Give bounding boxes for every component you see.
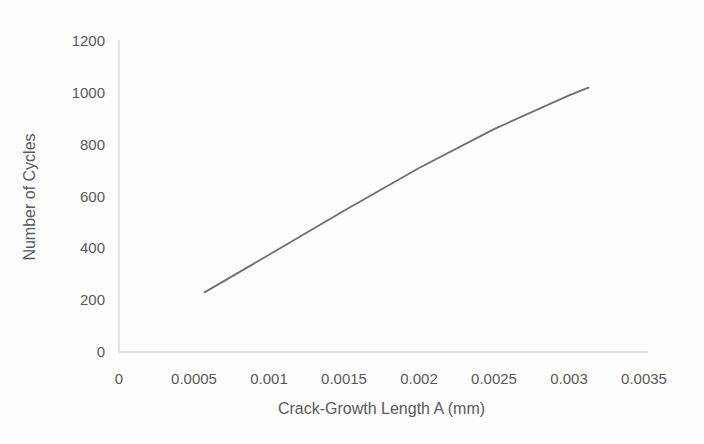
x-tick-label: 0.0015 [321, 370, 367, 387]
x-tick-label: 0.0025 [471, 370, 517, 387]
y-tick-label: 400 [80, 239, 105, 256]
y-tick-label: 200 [80, 291, 105, 308]
line-chart: 02004006008001000120000.00050.0010.00150… [0, 0, 704, 444]
y-tick-label: 600 [80, 188, 105, 205]
x-tick-label: 0 [115, 370, 123, 387]
x-tick-label: 0.0005 [171, 370, 217, 387]
y-tick-label: 1000 [72, 84, 105, 101]
y-tick-label: 1200 [72, 32, 105, 49]
y-tick-label: 0 [97, 343, 105, 360]
x-tick-label: 0.001 [250, 370, 288, 387]
series-line [205, 88, 589, 293]
x-axis-title: Crack-Growth Length A (mm) [119, 400, 644, 418]
x-tick-label: 0.002 [400, 370, 438, 387]
x-tick-label: 0.0035 [621, 370, 667, 387]
chart-canvas: 02004006008001000120000.00050.0010.00150… [0, 0, 704, 444]
y-axis-title: Number of Cycles [21, 133, 39, 260]
x-tick-label: 0.003 [550, 370, 588, 387]
y-tick-label: 800 [80, 136, 105, 153]
